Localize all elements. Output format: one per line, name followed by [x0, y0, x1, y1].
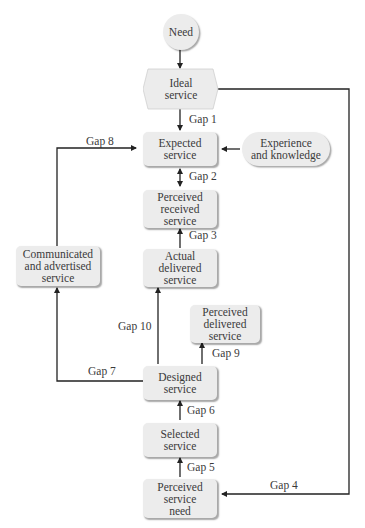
gap-5-label: Gap 5: [187, 461, 215, 473]
service-gap-diagram: Need Ideal service Expected service Expe…: [0, 0, 365, 528]
node-communicated-label: Communicated and advertised service: [23, 248, 93, 284]
node-expected-label: Expected service: [159, 137, 202, 161]
gap-6-label: Gap 6: [187, 404, 215, 416]
node-perceived-need-label: Perceived service need: [157, 481, 202, 517]
gap-8-label: Gap 8: [86, 135, 114, 147]
node-perceived-delivered-label: Perceived delivered service: [202, 306, 247, 342]
node-selected-service: Selected service: [143, 423, 217, 457]
node-designed-label: Designed service: [158, 371, 201, 395]
gap-1-label: Gap 1: [189, 113, 217, 125]
node-designed-service: Designed service: [143, 366, 217, 400]
node-experience-knowledge: Experience and knowledge: [242, 132, 330, 166]
node-perceived-service-need: Perceived service need: [143, 479, 217, 518]
gap-10-label: Gap 10: [118, 320, 152, 332]
node-perceived-received-service: Perceived received service: [143, 190, 217, 228]
gap-4-label: Gap 4: [270, 479, 298, 491]
node-ideal-service: Ideal service: [143, 68, 219, 110]
node-actual-delivered-service: Actual delivered service: [143, 249, 217, 287]
gap-9-label: Gap 9: [212, 347, 240, 359]
node-ideal-label: Ideal service: [165, 77, 198, 101]
node-need: Need: [163, 14, 199, 50]
gap-2-label: Gap 2: [189, 170, 217, 182]
node-communicated-advertised-service: Communicated and advertised service: [16, 246, 100, 286]
node-need-label: Need: [169, 26, 193, 38]
node-expected-service: Expected service: [143, 132, 217, 166]
gap-3-label: Gap 3: [189, 229, 217, 241]
node-selected-label: Selected service: [161, 428, 200, 452]
node-perceived-delivered-service: Perceived delivered service: [190, 305, 260, 343]
node-perceived-received-label: Perceived received service: [157, 191, 202, 227]
gap-7-label: Gap 7: [88, 365, 116, 377]
node-actual-delivered-label: Actual delivered service: [159, 250, 202, 286]
node-experience-label: Experience and knowledge: [251, 137, 321, 161]
